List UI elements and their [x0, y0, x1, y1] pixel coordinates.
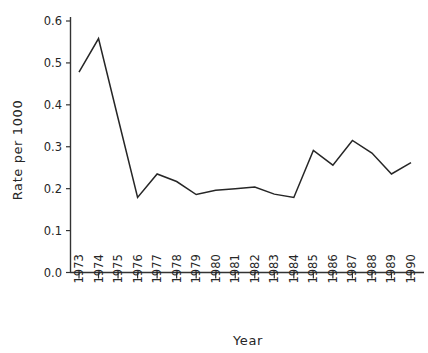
x-tick-label: 1984: [287, 254, 301, 283]
line-chart: 0.00.10.20.30.40.50.6 197319741975197619…: [0, 0, 428, 353]
x-tick-label: 1983: [267, 254, 281, 283]
x-axis-title: Year: [232, 333, 263, 348]
x-tick-label: 1982: [248, 254, 262, 283]
x-tick-label: 1980: [209, 254, 223, 283]
x-tick-label: 1974: [92, 254, 106, 283]
y-tick-label: 0.3: [44, 140, 62, 154]
x-tick-label: 1990: [404, 254, 418, 283]
x-tick-label: 1978: [170, 254, 184, 283]
x-tick-label: 1977: [150, 254, 164, 283]
x-tick-label: 1973: [72, 254, 86, 283]
y-tick-label: 0.2: [44, 182, 62, 196]
x-tick-label: 1976: [131, 254, 145, 283]
chart-background: [0, 0, 428, 353]
x-tick-label: 1985: [306, 254, 320, 283]
y-tick-label: 0.6: [44, 14, 62, 28]
x-tick-label: 1986: [326, 254, 340, 283]
y-tick-label: 0.5: [44, 56, 62, 70]
x-tick-label: 1979: [189, 254, 203, 283]
y-axis-title: Rate per 1000: [10, 100, 25, 201]
y-tick-label: 0.1: [44, 224, 62, 238]
x-tick-label: 1987: [345, 254, 359, 283]
y-tick-label: 0.0: [44, 266, 62, 280]
x-tick-label: 1988: [365, 254, 379, 283]
x-tick-label: 1981: [228, 254, 242, 283]
x-tick-label: 1989: [384, 254, 398, 283]
chart-canvas: 0.00.10.20.30.40.50.6 197319741975197619…: [0, 0, 428, 353]
y-tick-label: 0.4: [44, 98, 62, 112]
x-tick-label: 1975: [111, 254, 125, 283]
